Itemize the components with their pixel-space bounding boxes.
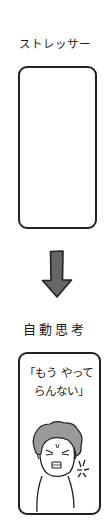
speech-line-1: 「もう やって <box>24 364 100 382</box>
stressor-panel <box>18 66 97 229</box>
automatic-thought-label: 自動思考 <box>0 319 109 338</box>
down-arrow-icon <box>40 250 74 299</box>
speech-text: 「もう やって らんない」 <box>24 364 100 400</box>
stressor-label: ストレッサー <box>0 35 109 51</box>
anger-mark-icon <box>77 460 89 477</box>
angry-person-icon <box>28 420 98 515</box>
speech-line-2: らんない」 <box>24 382 100 400</box>
